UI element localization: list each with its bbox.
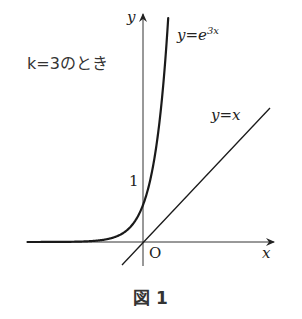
figure: y x O 1 y=e3x y=x k=3のとき 図 1 [0, 0, 302, 319]
condition-label: k=3のとき [27, 50, 108, 74]
identity-line-label: y=x [211, 106, 241, 124]
y-tick-label: 1 [129, 172, 139, 190]
line-y-equals-x [122, 108, 270, 265]
origin-label: O [149, 244, 161, 262]
y-axis-label: y [127, 8, 135, 26]
graph-canvas [0, 0, 302, 319]
figure-caption: 図 1 [133, 284, 168, 309]
exponential-label-exponent: 3x [207, 25, 219, 36]
x-axis-label: x [262, 244, 270, 262]
exponential-label-base: y=e [177, 26, 207, 44]
exponential-curve-label: y=e3x [177, 25, 219, 44]
